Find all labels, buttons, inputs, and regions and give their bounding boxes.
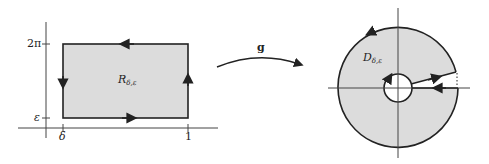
y-tick-label-epsilon: ε (34, 112, 40, 123)
annulus-label-subscript: δ,ε (372, 57, 382, 65)
rectangle-label-subscript: δ,ε (126, 79, 136, 87)
annulus-label-main: D (363, 51, 372, 64)
x-tick-label-one: 1 (185, 131, 192, 142)
x-tick-label-delta: δ (59, 131, 66, 142)
annulus-label: Dδ,ε (363, 52, 382, 65)
map-arrow (217, 58, 299, 67)
diagram-canvas (0, 0, 489, 164)
map-label: g (257, 42, 265, 53)
right-panel (328, 8, 470, 158)
rectangle-label: Rδ,ε (118, 74, 137, 87)
y-tick-label-2pi: 2π (27, 38, 41, 49)
